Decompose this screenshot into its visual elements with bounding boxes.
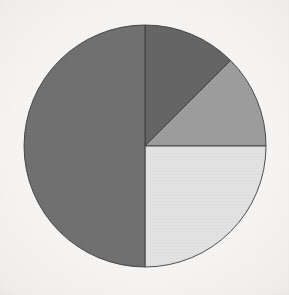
pie-slice-group: [24, 25, 266, 267]
pie-chart-figure: [0, 0, 289, 295]
pie-slice-3: [145, 146, 266, 267]
pie-slice-4: [24, 25, 145, 267]
pie-chart-svg: [0, 0, 289, 295]
